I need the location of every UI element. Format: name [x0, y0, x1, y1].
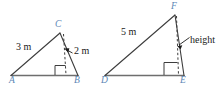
measure-label-hypotenuse-def: 5 m: [121, 27, 136, 37]
measure-label-height-def: height: [190, 35, 215, 45]
vertex-label-f: F: [171, 2, 177, 12]
right-angle-marker-def: [164, 63, 178, 76]
right-angle-marker-abc: [55, 66, 66, 76]
segment-fe-side: [175, 15, 184, 76]
vertex-label-c: C: [55, 20, 61, 30]
measure-label-hypotenuse-abc: 3 m: [16, 42, 31, 52]
vertex-label-e: E: [180, 76, 186, 86]
segment-ac-hypotenuse: [11, 33, 60, 76]
leader-arrowhead-two-m: [64, 48, 69, 52]
figure-drawing-canvas: [0, 0, 224, 94]
triangle-def-group: [105, 15, 190, 76]
vertex-label-a: A: [9, 76, 15, 86]
leader-line-height: [179, 38, 190, 46]
measure-label-height-abc: 2 m: [74, 46, 89, 56]
geometry-figure: A B C 3 m 2 m D E F 5 m height: [0, 0, 224, 94]
vertex-label-d: D: [101, 76, 108, 86]
triangle-abc-group: [11, 33, 78, 76]
vertex-label-b: B: [74, 76, 80, 86]
altitude-dashed-abc: [64, 34, 67, 75]
